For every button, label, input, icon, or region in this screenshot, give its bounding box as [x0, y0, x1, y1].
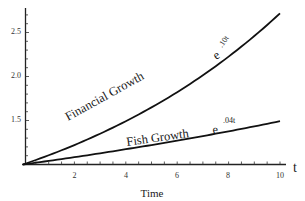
fish-growth-label: Fish Growth — [125, 126, 190, 149]
y-tick-label: 2.0 — [11, 71, 21, 80]
fish-exp-base: e — [211, 122, 219, 137]
x-tick-label: 10 — [276, 171, 284, 180]
fish-exponent: .04t — [223, 116, 236, 125]
financial-exponent: .10t — [216, 33, 231, 49]
x-axis-title: Time — [141, 187, 164, 199]
financial-growth-label: Financial Growth — [63, 68, 147, 123]
x-tick-label: 8 — [226, 171, 230, 180]
financial-exp-base: e — [210, 47, 223, 62]
growth-chart: 2.5 2.0 1.5 2 4 6 8 10 Time t Financial … — [0, 0, 305, 201]
x-tick-label: 2 — [73, 171, 77, 180]
y-tick-label: 1.5 — [11, 115, 21, 124]
x-tick-label: 4 — [124, 171, 128, 180]
x-axis-variable-label: t — [293, 160, 297, 175]
y-tick-label: 2.5 — [11, 27, 21, 36]
x-tick-label: 6 — [175, 171, 179, 180]
